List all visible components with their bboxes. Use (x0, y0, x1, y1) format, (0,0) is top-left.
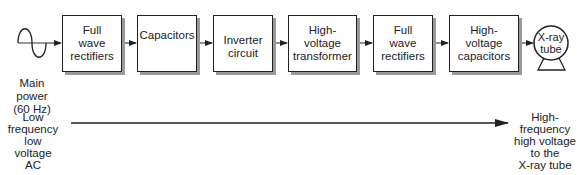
block-text: capacitors (458, 50, 510, 63)
block-inverter-circuit: Invertercircuit (213, 15, 273, 72)
input-description-line: Low (0, 111, 66, 123)
source-label-line: power (0, 90, 64, 103)
output-description-line: high voltage (505, 135, 585, 147)
output-description-line: to the (505, 147, 585, 159)
input-description-line: frequency (0, 123, 66, 135)
block-text: transformer (293, 50, 352, 63)
block-high-voltage-capacitors: High-voltagecapacitors (449, 15, 519, 72)
block-text: circuit (224, 47, 263, 60)
block-capacitors: Capacitors (137, 15, 197, 72)
x-ray-tube-label: X-ray tube (534, 31, 568, 55)
input-description: Low frequency low voltage AC (0, 111, 66, 171)
block-text: wave (381, 37, 424, 50)
block-text: voltage (293, 37, 352, 50)
output-description: High- frequency high voltage to the X-ra… (505, 111, 585, 171)
block-text: rectifiers (381, 50, 424, 63)
block-text: Full (381, 24, 424, 37)
block-text: voltage (458, 37, 510, 50)
block-text: rectifiers (70, 50, 113, 63)
output-description-line: frequency (505, 123, 585, 135)
sine-wave-icon (18, 29, 46, 58)
input-description-line: voltage (0, 147, 66, 159)
block-text: High- (458, 24, 510, 37)
output-description-line: X-ray tube (505, 159, 585, 171)
tube-text: tube (534, 43, 568, 55)
source-label-line: Main (0, 77, 64, 90)
block-text: Full (70, 24, 113, 37)
block-high-voltage-transformer: High-voltagetransformer (288, 15, 357, 72)
tube-text: X-ray (534, 31, 568, 43)
block-full-wave-rectifiers-1: Fullwaverectifiers (62, 15, 122, 72)
block-text: wave (70, 37, 113, 50)
block-text: Capacitors (140, 29, 195, 42)
input-description-line: low (0, 135, 66, 147)
input-description-line: AC (0, 159, 66, 171)
output-description-line: High- (505, 111, 585, 123)
block-full-wave-rectifiers-2: Fullwaverectifiers (373, 15, 433, 72)
block-text: High- (293, 24, 352, 37)
block-text: Inverter (224, 34, 263, 47)
